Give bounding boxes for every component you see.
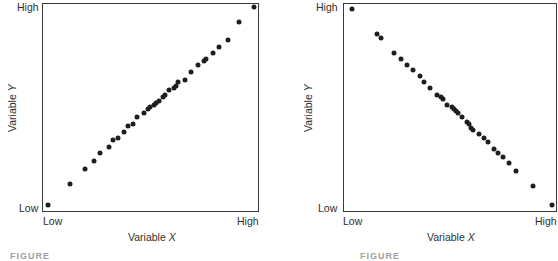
data-point: [135, 115, 140, 120]
y-tick-low: Low: [318, 202, 337, 214]
data-point: [428, 86, 433, 91]
data-point: [485, 140, 490, 145]
data-point: [530, 184, 535, 189]
data-point: [176, 80, 181, 85]
data-point: [513, 169, 518, 174]
y-tick-high: High: [17, 1, 39, 13]
data-point: [98, 150, 103, 155]
y-tick-high: High: [316, 1, 338, 13]
figure-caption: FIGURE: [10, 251, 50, 261]
x-axis-label: Variable X: [128, 231, 176, 243]
data-point: [68, 181, 73, 186]
data-point: [46, 202, 51, 207]
x-tick-low: Low: [43, 215, 62, 227]
data-point: [225, 38, 230, 43]
data-point: [398, 57, 403, 62]
data-point: [115, 136, 120, 141]
data-point: [404, 63, 409, 68]
data-point: [411, 67, 416, 72]
x-tick-high: High: [237, 215, 259, 227]
scatter-panel-negative: High Low Variable Y Low High Variable X …: [280, 0, 558, 257]
data-point: [507, 161, 512, 166]
x-tick-low: Low: [343, 215, 362, 227]
data-point: [141, 111, 146, 116]
data-point: [236, 19, 241, 24]
data-point: [217, 44, 222, 49]
data-point: [106, 144, 111, 149]
data-point: [182, 77, 187, 82]
x-tick-high: High: [535, 215, 557, 227]
data-point: [204, 57, 209, 62]
data-point: [122, 129, 127, 134]
y-axis-label: Variable Y: [6, 84, 18, 132]
data-point: [421, 80, 426, 85]
scatter-panel-positive: High Low Variable Y Low High Variable X …: [0, 0, 280, 257]
y-axis-label: Variable Y: [302, 84, 314, 132]
data-point: [441, 96, 446, 101]
data-point: [83, 167, 88, 172]
y-tick-low: Low: [19, 202, 38, 214]
data-point: [91, 159, 96, 164]
data-point: [500, 154, 505, 159]
data-point: [195, 63, 200, 68]
data-point: [251, 5, 256, 10]
data-point: [156, 98, 161, 103]
data-point: [130, 121, 135, 126]
x-axis-label: Variable X: [427, 231, 475, 243]
data-point: [549, 202, 554, 207]
figure-caption: FIGURE: [360, 251, 400, 261]
data-point: [163, 92, 168, 97]
data-point: [417, 73, 422, 78]
data-point: [189, 69, 194, 74]
data-point: [392, 50, 397, 55]
data-point: [210, 50, 215, 55]
data-point: [470, 127, 475, 132]
data-point: [349, 7, 354, 12]
data-point: [379, 36, 384, 41]
